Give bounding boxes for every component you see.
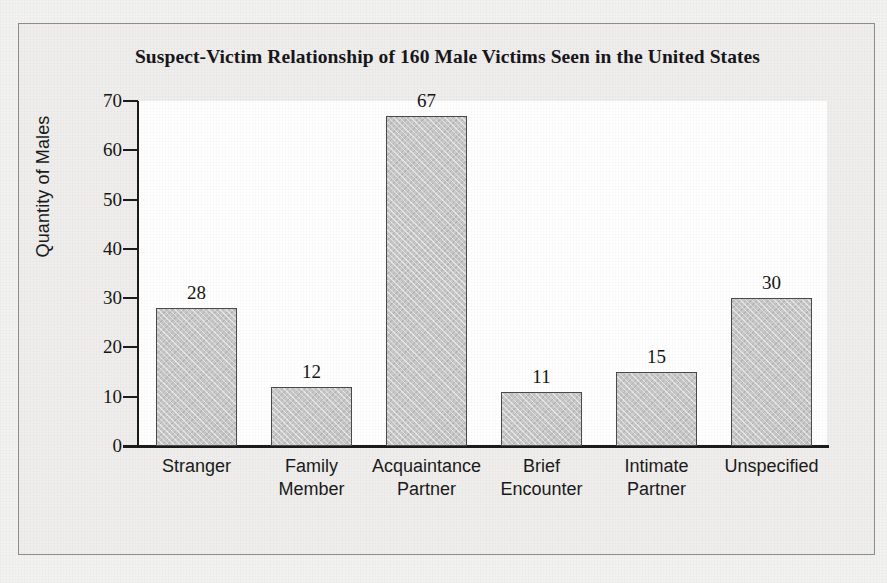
bar-group: 12: [271, 101, 352, 446]
bar-group: 28: [156, 101, 237, 446]
category-label-line: Partner: [593, 478, 720, 501]
x-axis-category-label: Stranger: [133, 455, 260, 478]
y-axis-tick-label: 0: [27, 435, 122, 457]
bar-value-label: 12: [271, 361, 352, 383]
category-label-line: Unspecified: [708, 455, 835, 478]
plot-area: [137, 101, 827, 446]
figure-page: Suspect-Victim Relationship of 160 Male …: [0, 0, 887, 583]
category-label-line: Stranger: [133, 455, 260, 478]
x-axis-category-label: IntimatePartner: [593, 455, 720, 500]
bar-value-label: 11: [501, 366, 582, 388]
bar-value-label: 28: [156, 282, 237, 304]
x-axis-category-label: BriefEncounter: [478, 455, 605, 500]
y-axis-tick-label: 50: [27, 189, 122, 211]
bar[interactable]: [616, 372, 697, 446]
chart-title: Suspect-Victim Relationship of 160 Male …: [19, 46, 876, 68]
category-label-line: Acquaintance: [363, 455, 490, 478]
y-axis-tick-mark: [123, 149, 138, 151]
y-axis-tick-mark: [123, 100, 138, 102]
bar[interactable]: [271, 387, 352, 446]
x-axis-category-label: AcquaintancePartner: [363, 455, 490, 500]
bar-group: 11: [501, 101, 582, 446]
bar[interactable]: [731, 298, 812, 446]
y-axis-tick-mark: [123, 396, 138, 398]
bar-group: 67: [386, 101, 467, 446]
bar[interactable]: [156, 308, 237, 446]
y-axis-tick-label: 60: [27, 139, 122, 161]
y-axis-tick-label: 30: [27, 287, 122, 309]
category-label-line: Encounter: [478, 478, 605, 501]
category-label-line: Intimate: [593, 455, 720, 478]
y-axis-tick-label: 70: [27, 90, 122, 112]
y-axis-tick-label: 10: [27, 386, 122, 408]
bar-group: 30: [731, 101, 812, 446]
y-axis-tick-mark: [123, 445, 138, 447]
category-label-line: Partner: [363, 478, 490, 501]
bar-value-label: 67: [386, 90, 467, 112]
category-label-line: Family: [248, 455, 375, 478]
bar-value-label: 30: [731, 272, 812, 294]
bar[interactable]: [386, 116, 467, 446]
y-axis-tick-label: 20: [27, 336, 122, 358]
category-label-line: Member: [248, 478, 375, 501]
category-label-line: Brief: [478, 455, 605, 478]
y-axis-tick-mark: [123, 199, 138, 201]
y-axis-tick-mark: [123, 346, 138, 348]
bar[interactable]: [501, 392, 582, 446]
figure-frame: Suspect-Victim Relationship of 160 Male …: [18, 23, 875, 555]
x-axis-category-label: Unspecified: [708, 455, 835, 478]
bar-group: 15: [616, 101, 697, 446]
y-axis-tick-label: 40: [27, 238, 122, 260]
x-axis-category-label: FamilyMember: [248, 455, 375, 500]
y-axis-tick-mark: [123, 248, 138, 250]
y-axis-tick-mark: [123, 297, 138, 299]
bar-value-label: 15: [616, 346, 697, 368]
